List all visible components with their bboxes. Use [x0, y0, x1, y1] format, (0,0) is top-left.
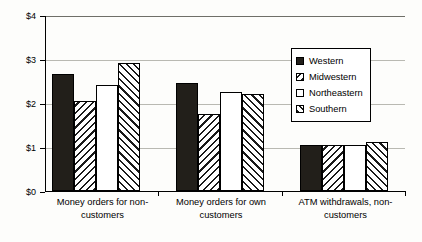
x-category-label-1: Money orders for non-customers [45, 196, 160, 222]
legend-label-western: Western [309, 56, 343, 66]
legend-item-midwestern: Midwestern [296, 69, 363, 85]
bar-western-atm-withdrawals-non-customers [300, 145, 322, 191]
bar-southern-money-orders-own-customers [242, 94, 264, 191]
x-group-tick-3 [405, 191, 406, 196]
legend-swatch-forwardslash-hatch-icon [296, 105, 304, 113]
y-tick-mark-0 [40, 192, 45, 193]
legend: Western Midwestern Northeastern Southern [291, 48, 371, 122]
bar-western-money-orders-non-customers [52, 74, 74, 191]
x-axis-labels: Money orders for non-customers Money ord… [45, 196, 405, 240]
bar-midwestern-money-orders-non-customers [74, 101, 96, 191]
legend-swatch-solid-black-icon [296, 57, 304, 65]
bar-midwestern-money-orders-own-customers [198, 114, 220, 191]
legend-item-southern: Southern [296, 101, 363, 117]
legend-swatch-white-empty-icon [296, 89, 304, 97]
y-tick-label-2: $2 [26, 100, 36, 109]
y-tick-label-4: $4 [26, 12, 36, 21]
x-category-label-3: ATM withdrawals, non-customers [288, 196, 403, 222]
legend-swatch-backslash-hatch-icon [296, 73, 304, 81]
legend-label-midwestern: Midwestern [309, 72, 357, 82]
bar-northeastern-money-orders-non-customers [96, 85, 118, 191]
legend-item-western: Western [296, 53, 363, 69]
bar-northeastern-money-orders-own-customers [220, 92, 242, 191]
y-axis: $0 $1 $2 $3 $4 [0, 0, 44, 242]
bar-northeastern-atm-withdrawals-non-customers [344, 145, 366, 191]
legend-label-southern: Southern [309, 104, 347, 114]
bar-southern-atm-withdrawals-non-customers [366, 142, 388, 191]
legend-item-northeastern: Northeastern [296, 85, 363, 101]
bar-southern-money-orders-non-customers [118, 63, 140, 191]
bar-midwestern-atm-withdrawals-non-customers [322, 145, 344, 191]
y-tick-label-3: $3 [26, 56, 36, 65]
y-tick-label-0: $0 [26, 188, 36, 197]
x-category-label-2: Money orders for own customers [165, 196, 277, 222]
gridline-4 [46, 16, 405, 17]
bar-western-money-orders-own-customers [176, 83, 198, 191]
y-tick-label-1: $1 [26, 144, 36, 153]
bar-chart: $0 $1 $2 $3 $4 [0, 0, 422, 242]
legend-label-northeastern: Northeastern [309, 88, 363, 98]
